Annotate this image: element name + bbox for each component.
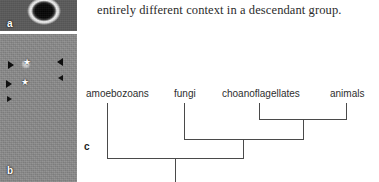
arrowhead-marker-icon — [8, 61, 14, 69]
arrowhead-marker-icon — [57, 58, 63, 66]
root-stem — [175, 158, 176, 182]
micrograph-grain-b — [0, 34, 77, 182]
taxon-label-animals: animals — [330, 88, 364, 99]
branch-amoebozoans — [107, 103, 108, 158]
body-text-line: entirely different context in a descenda… — [97, 3, 379, 18]
branch-choanoflagellates — [259, 103, 260, 119]
micrograph-panel-a: a — [0, 0, 77, 31]
micrograph-panel-b: ★ ★ b — [0, 34, 77, 182]
star-marker-icon: ★ — [21, 78, 29, 87]
branch-fungi — [184, 103, 185, 139]
taxon-label-fungi: fungi — [174, 88, 196, 99]
cladogram: amoebozoans fungi choanoflagellates anim… — [77, 84, 379, 182]
taxon-label-amoebozoans: amoebozoans — [86, 88, 149, 99]
stem-choanoflagellates-animals — [303, 119, 304, 139]
panel-letter-b: b — [7, 166, 13, 176]
arrowhead-marker-icon — [6, 80, 12, 88]
arrowhead-marker-icon — [58, 75, 63, 81]
star-marker-icon: ★ — [23, 58, 31, 67]
panel-letter-a: a — [7, 19, 13, 29]
taxon-label-choanoflagellates: choanoflagellates — [222, 88, 300, 99]
branch-animals — [346, 103, 347, 119]
arrowhead-marker-icon — [7, 96, 12, 102]
node-fungi-clade — [184, 139, 304, 140]
stem-fungi-clade — [243, 139, 244, 158]
figure-panels: a ★ ★ b — [0, 0, 77, 182]
